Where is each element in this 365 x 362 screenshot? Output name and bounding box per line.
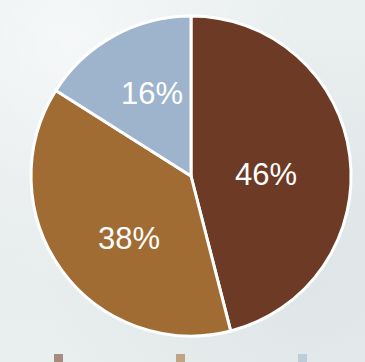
pie-label-38: 38%: [98, 221, 160, 256]
pie-label-16: 16%: [121, 76, 183, 111]
legend-swatch-icon-1: [54, 354, 63, 362]
legend-item-1[interactable]: [54, 354, 67, 362]
legend-swatch-icon-3: [298, 354, 307, 362]
legend-item-2[interactable]: [176, 354, 189, 362]
pie-chart-svg: 46% 38% 16%: [0, 0, 365, 362]
legend-item-3[interactable]: [298, 354, 311, 362]
pie-chart: 46% 38% 16%: [0, 0, 365, 362]
legend-swatch-icon-2: [176, 354, 185, 362]
pie-label-46: 46%: [235, 157, 297, 192]
chart-legend: [0, 353, 365, 362]
